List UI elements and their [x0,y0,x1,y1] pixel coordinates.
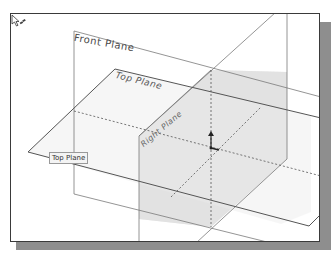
plane-tooltip: Top Plane [49,152,88,164]
graphics-area[interactable]: Front Plane Top Plane Right Plane Top Pl… [10,13,320,242]
select-plane-cursor-icon [11,14,27,28]
